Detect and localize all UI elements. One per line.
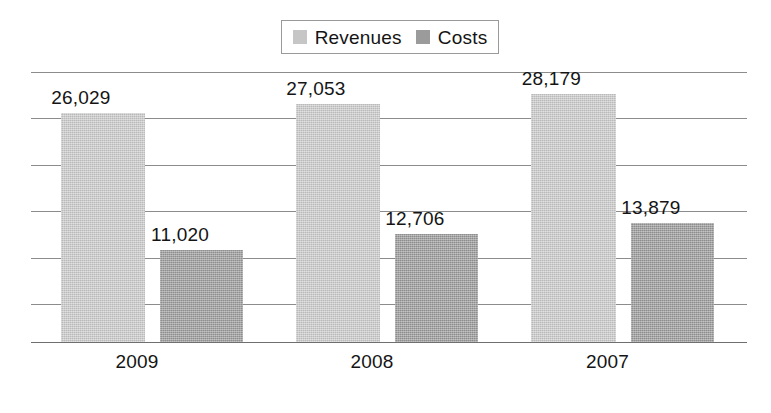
gridline-1 xyxy=(31,72,747,73)
value-label-2008-revenues: 27,053 xyxy=(256,79,376,98)
legend-entry-revenues: Revenues xyxy=(293,28,402,47)
legend-entry-costs: Costs xyxy=(416,28,488,47)
value-label-2009-costs: 11,020 xyxy=(121,225,239,244)
bar-chart: Revenues Costs 26,029 11,020 27,053 12,7… xyxy=(0,0,771,413)
bar-2009-costs xyxy=(160,250,243,342)
value-label-2007-costs: 13,879 xyxy=(592,198,710,217)
axis-baseline xyxy=(31,342,747,343)
bar-2008-costs xyxy=(395,234,478,342)
category-label-2008: 2008 xyxy=(296,352,448,371)
chart-legend: Revenues Costs xyxy=(281,20,499,54)
legend-swatch-revenues xyxy=(293,30,307,44)
value-label-2009-revenues: 26,029 xyxy=(21,88,141,107)
value-label-2007-revenues: 28,179 xyxy=(491,69,612,88)
bar-2007-revenues xyxy=(531,94,616,342)
legend-swatch-costs xyxy=(416,30,430,44)
value-label-2008-costs: 12,706 xyxy=(356,209,474,228)
category-label-2007: 2007 xyxy=(531,352,684,371)
bar-2007-costs xyxy=(631,223,714,342)
legend-label-costs: Costs xyxy=(438,28,488,47)
category-label-2009: 2009 xyxy=(61,352,213,371)
legend-label-revenues: Revenues xyxy=(315,28,402,47)
